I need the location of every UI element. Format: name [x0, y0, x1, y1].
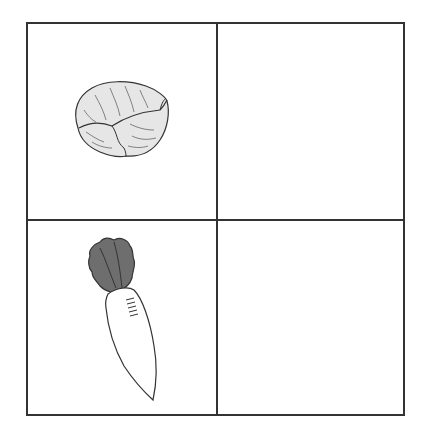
radish-icon	[28, 221, 216, 416]
cell-top-left	[28, 24, 216, 219]
cabbage-icon	[28, 24, 216, 219]
cell-bottom-right	[218, 221, 405, 416]
cell-top-right	[218, 24, 405, 219]
cell-bottom-left	[28, 221, 216, 416]
picture-grid	[26, 22, 405, 416]
